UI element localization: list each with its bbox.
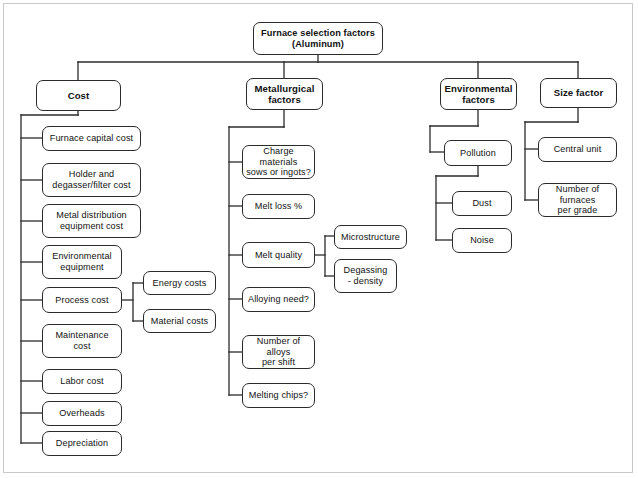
node-root[interactable]: Furnace selection factors (Aluminum) [253,22,383,55]
node-furnace-capital-cost[interactable]: Furnace capital cost [42,126,141,151]
node-pollution[interactable]: Pollution [444,140,512,166]
node-material-costs[interactable]: Material costs [143,309,216,333]
node-number-of-furnaces-per-grade[interactable]: Number of furnaces per grade [538,183,617,217]
node-number-of-alloys-per-shift[interactable]: Number of alloys per shift [242,335,315,369]
node-noise[interactable]: Noise [452,228,512,253]
node-size-factor[interactable]: Size factor [540,78,617,108]
node-maintenance-cost[interactable]: Maintenance cost [42,324,122,358]
node-process-cost[interactable]: Process cost [42,287,122,313]
node-microstructure[interactable]: Microstructure [334,225,407,249]
node-environmental-factors[interactable]: Environmental factors [440,78,517,110]
node-melt-loss[interactable]: Melt loss % [242,194,315,219]
node-melting-chips[interactable]: Melting chips? [242,383,315,408]
node-metallurgical-factors[interactable]: Metallurgical factors [246,78,323,110]
node-cost[interactable]: Cost [36,80,121,111]
node-dust[interactable]: Dust [452,191,512,216]
node-environmental-equipment[interactable]: Environmental equipment [42,245,122,279]
node-central-unit[interactable]: Central unit [538,137,617,162]
node-degassing-density[interactable]: Degassing - density [334,259,397,293]
diagram-canvas: Furnace selection factors (Aluminum) Cos… [0,0,638,478]
node-metal-distribution-equipment-cost[interactable]: Metal distribution equipment cost [42,204,141,238]
node-alloying-need[interactable]: Alloying need? [242,287,315,312]
node-melt-quality[interactable]: Melt quality [242,242,315,268]
node-depreciation[interactable]: Depreciation [42,431,122,456]
node-energy-costs[interactable]: Energy costs [143,271,216,295]
node-holder-degasser-filter-cost[interactable]: Holder and degasser/filter cost [42,163,141,197]
node-overheads[interactable]: Overheads [42,401,122,426]
node-labor-cost[interactable]: Labor cost [42,369,122,394]
node-charge-materials[interactable]: Charge materials sows or ingots? [242,145,315,179]
